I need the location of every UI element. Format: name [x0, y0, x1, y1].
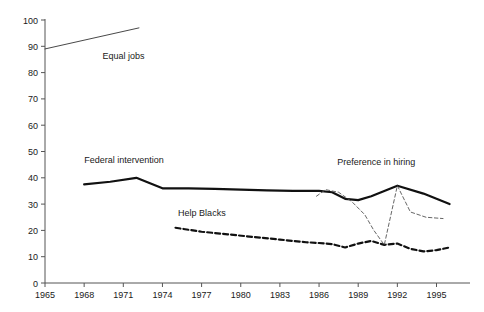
- x-tick-label: 1968: [74, 290, 94, 300]
- series-label: Preference in hiring: [337, 157, 415, 167]
- y-tick-label: 70: [28, 94, 38, 104]
- y-tick-label: 60: [28, 121, 38, 131]
- y-tick-label: 90: [28, 42, 38, 52]
- y-tick-label: 20: [28, 226, 38, 236]
- x-tick-label: 1980: [231, 290, 251, 300]
- x-tick-label: 1989: [348, 290, 368, 300]
- line-chart: 0102030405060708090100 19651968197119741…: [0, 0, 484, 312]
- y-tick-label: 10: [28, 252, 38, 262]
- x-tick-label: 1965: [35, 290, 55, 300]
- y-tick-label: 40: [28, 173, 38, 183]
- y-tick-label: 100: [23, 16, 38, 26]
- y-tick-label: 80: [28, 68, 38, 78]
- series-label: Federal intervention: [84, 155, 164, 165]
- y-tick-label: 50: [28, 147, 38, 157]
- x-tick-label: 1995: [426, 290, 446, 300]
- x-tick-label: 1971: [113, 290, 133, 300]
- series-label: Help Blacks: [178, 208, 226, 218]
- y-tick-label: 30: [28, 200, 38, 210]
- x-tick-label: 1977: [192, 290, 212, 300]
- x-tick-label: 1983: [270, 290, 290, 300]
- x-tick-label: 1986: [309, 290, 329, 300]
- series-label: Equal jobs: [102, 51, 145, 61]
- x-tick-label: 1992: [387, 290, 407, 300]
- x-tick-label: 1974: [152, 290, 172, 300]
- y-tick-label: 0: [33, 279, 38, 289]
- chart-container: 0102030405060708090100 19651968197119741…: [0, 0, 484, 312]
